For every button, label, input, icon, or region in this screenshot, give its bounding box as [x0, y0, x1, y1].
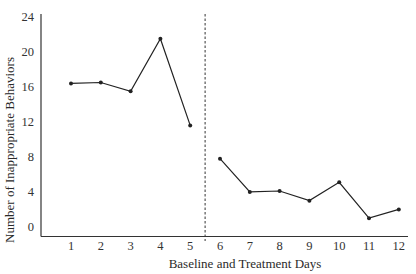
series-line — [220, 159, 399, 219]
x-tick-label: 4 — [157, 239, 164, 253]
x-tick-label: 5 — [187, 239, 193, 253]
x-tick-label: 6 — [217, 239, 223, 253]
y-tick-label: 8 — [28, 150, 34, 164]
data-point — [99, 81, 103, 85]
x-tick-label: 2 — [98, 239, 104, 253]
x-tick-label: 7 — [247, 239, 253, 253]
y-tick-label: 16 — [22, 80, 35, 94]
y-axis-title: Number of Inappropriate Behaviors — [2, 57, 17, 243]
y-tick-label: 24 — [22, 10, 35, 24]
data-point — [367, 216, 371, 220]
series-treatment — [218, 157, 401, 221]
y-tick-label: 4 — [28, 185, 35, 199]
series-line — [71, 39, 190, 126]
data-point — [397, 207, 401, 211]
x-axis: 123456789101112 — [41, 237, 408, 254]
data-point — [129, 89, 133, 93]
x-tick-label: 12 — [393, 239, 406, 253]
y-tick-label: 12 — [22, 115, 35, 129]
data-point — [278, 189, 282, 193]
x-tick-label: 8 — [276, 239, 282, 253]
line-chart: 04812162024 123456789101112 Baseline and… — [0, 0, 416, 274]
data-point — [69, 81, 73, 85]
x-tick-label: 10 — [333, 239, 346, 253]
data-series — [69, 37, 401, 220]
y-axis: 04812162024 — [22, 10, 42, 237]
y-tick-label: 20 — [22, 45, 35, 59]
x-axis-title: Baseline and Treatment Days — [169, 256, 322, 271]
data-point — [188, 123, 192, 127]
data-point — [307, 199, 311, 203]
data-point — [158, 37, 162, 41]
y-tick-label: 0 — [28, 220, 34, 234]
x-tick-labels: 123456789101112 — [68, 239, 405, 253]
data-point — [248, 190, 252, 194]
series-baseline — [69, 37, 192, 128]
x-tick-label: 11 — [363, 239, 375, 253]
data-point — [218, 157, 222, 161]
x-tick-label: 3 — [127, 239, 133, 253]
data-point — [337, 180, 341, 184]
x-tick-label: 1 — [68, 239, 74, 253]
x-tick-label: 9 — [306, 239, 312, 253]
y-tick-labels: 04812162024 — [22, 10, 35, 234]
